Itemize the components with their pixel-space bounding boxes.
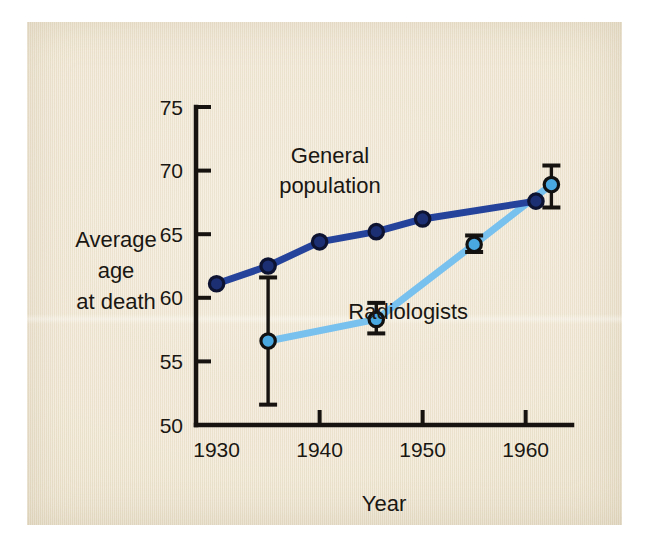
figure-container: 5055606570751930194019501960 Generalpopu… (0, 0, 649, 553)
data-point-general-population-2 (312, 235, 326, 249)
data-point-radiologists-3 (544, 177, 558, 191)
x-tick-label-1960: 1960 (502, 438, 549, 461)
y-axis-title-line-1: age (98, 258, 135, 283)
x-tick-label-1930: 1930 (193, 438, 240, 461)
x-tick-label-1950: 1950 (399, 438, 446, 461)
data-point-general-population-3 (369, 224, 383, 238)
series-label-radiologists: Radiologists (348, 299, 468, 324)
x-tick-label-1940: 1940 (296, 438, 343, 461)
y-tick-label-60: 60 (160, 286, 183, 309)
y-tick-label-65: 65 (160, 223, 183, 246)
chart-plot: 5055606570751930194019501960 Generalpopu… (0, 0, 649, 553)
y-tick-label-50: 50 (160, 414, 183, 437)
y-tick-label-70: 70 (160, 159, 183, 182)
y-axis-title-line-2: at death (76, 289, 156, 314)
axis-titles-group: YearAverageageat death (75, 227, 406, 516)
data-point-general-population-1 (261, 259, 275, 273)
y-tick-label-55: 55 (160, 350, 183, 373)
axes-group (196, 107, 572, 425)
data-series-group (209, 166, 560, 405)
x-axis-title: Year (362, 491, 406, 516)
data-point-radiologists-0 (261, 334, 275, 348)
series-label-general-population: population (279, 173, 381, 198)
series-label-general-population: General (291, 143, 369, 168)
data-point-general-population-4 (415, 212, 429, 226)
data-point-radiologists-2 (467, 237, 481, 251)
y-tick-label-75: 75 (160, 96, 183, 119)
data-point-general-population-0 (209, 277, 223, 291)
data-point-general-population-5 (529, 194, 543, 208)
y-axis-title-line-0: Average (75, 227, 157, 252)
